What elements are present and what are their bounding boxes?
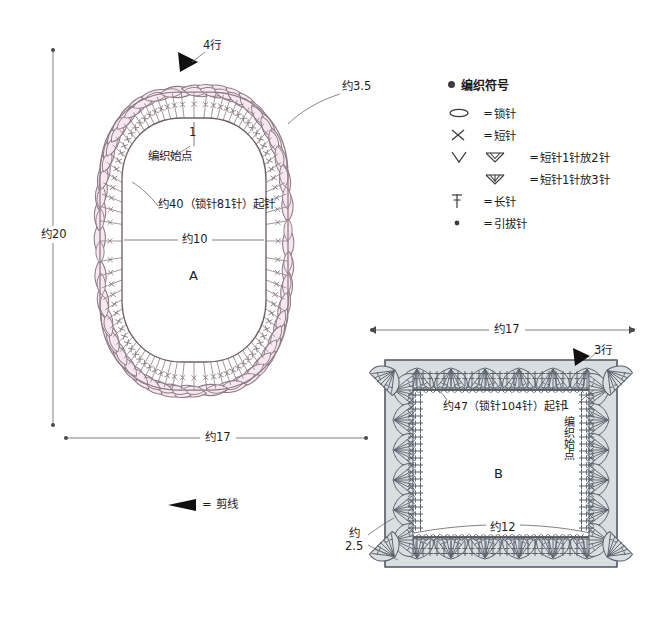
legend-item-chain: = 锁针 (448, 102, 658, 124)
label-a-letter: A (189, 268, 198, 283)
label-a-foundation: 约40（锁针81针）起针 (158, 198, 275, 211)
double-crochet-tbar-icon (448, 192, 482, 210)
legend-heading: 编织符号 (461, 76, 509, 93)
legend-label-slip: 引拔针 (494, 215, 527, 231)
label-a-height-dim: 约20 (40, 226, 68, 243)
two-in-one-v-icon (448, 149, 482, 165)
three-in-one-w-icon (482, 171, 528, 187)
label-b-start-point: 编织始点 (561, 416, 574, 460)
legend-eq-inc3: = (528, 172, 540, 186)
label-b-width-dim: 约17 (489, 323, 525, 336)
slip-stitch-dot-icon (448, 216, 482, 230)
two-in-one-w-icon (482, 149, 528, 165)
label-a-start-number: 1 (189, 126, 196, 139)
legend-heading-row: 编织符号 (448, 76, 658, 93)
label-a-inner-width: 约10 (178, 233, 212, 246)
label-a-rows: 4行 (203, 39, 221, 52)
label-a-start-point: 编织始点 (148, 150, 192, 163)
cut-legend-eq: = (202, 498, 212, 511)
legend-item-inc3: = 短针1针放3针 (448, 168, 658, 190)
label-b-rows: 3行 (594, 344, 612, 357)
legend-label-single: 短针 (494, 127, 516, 143)
legend-label-chain: 锁针 (494, 105, 516, 121)
legend-eq-single: = (482, 128, 494, 142)
label-a-width-dim: 约17 (200, 431, 236, 444)
legend-label-inc2: 短针1针放2针 (540, 149, 610, 165)
legend-label-inc3: 短针1针放3针 (540, 171, 610, 187)
legend-eq-chain: = (482, 106, 494, 120)
bullet-dot-icon (448, 81, 455, 88)
legend-eq-slip: = (482, 216, 494, 230)
cut-thread-arrow-a (178, 52, 198, 72)
legend-item-slip: = 引拔针 (448, 212, 658, 234)
label-b-inner-width: 约12 (486, 521, 520, 534)
label-b-edge-dim: 约 2.5 (345, 527, 363, 552)
diagram-sheet: 4行 约3.5 1 编织始点 约40（锁针81针）起针 约10 约20 约17 … (0, 0, 666, 627)
chain-stitch-oval-icon (448, 106, 482, 120)
legend-eq-inc2: = (528, 150, 540, 164)
label-b-start-number: 1 (562, 399, 569, 412)
stitch-legend: 编织符号 = 锁针 = 短针 (448, 76, 658, 234)
legend-item-double: = 长针 (448, 190, 658, 212)
label-a-petal-size: 约3.5 (342, 80, 371, 93)
legend-label-double: 长针 (494, 193, 516, 209)
label-b-letter: B (494, 466, 503, 481)
cut-thread-arrow-legend (168, 499, 196, 511)
single-crochet-cross-icon (448, 127, 482, 143)
legend-item-single: = 短针 (448, 124, 658, 146)
legend-eq-double: = (482, 194, 494, 208)
legend-item-inc2: = 短针1针放2针 (448, 146, 658, 168)
label-b-foundation: 约47（锁针104针）起针 (443, 401, 566, 414)
cut-legend-label: 剪线 (216, 498, 238, 511)
